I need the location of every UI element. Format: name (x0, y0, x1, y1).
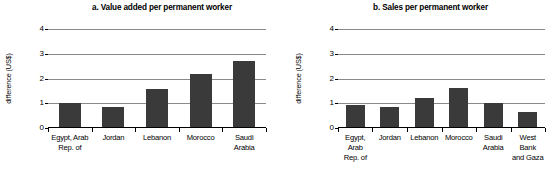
x-axis-label: Egypt, ArabRep. of (338, 133, 373, 163)
x-tick-mark (545, 128, 546, 132)
bar-egypt-arab-rep-of (346, 105, 365, 127)
figure: a. Value added per permanent worker diff… (0, 0, 553, 177)
panel-b-title: b. Sales per permanent worker (280, 3, 553, 12)
x-axis-label: Jordan (92, 133, 136, 153)
panel-b-y-axis-label-text: difference (US$) (294, 53, 303, 104)
x-axis-label-line1: Jordan (379, 133, 401, 142)
y-tick-label-2: 2 (30, 75, 44, 83)
y-tick-label-0: 0 (30, 124, 44, 132)
x-tick-mark (511, 128, 512, 132)
x-tick-mark (266, 128, 267, 132)
x-axis-label-line1: Morocco (445, 133, 473, 142)
x-tick-mark (92, 128, 93, 132)
panel-a-bars (48, 29, 266, 127)
bar-slot (135, 29, 179, 127)
panel-b-y-axis-label: difference (US$) (292, 29, 304, 128)
chart-panel-b: b. Sales per permanent worker difference… (280, 0, 553, 177)
bar-slot (407, 29, 442, 127)
bar-slot (442, 29, 477, 127)
panel-b-x-labels: Egypt, ArabRep. ofJordanLebanonMoroccoSa… (338, 133, 545, 163)
bar-egypt-arab-rep-of (59, 103, 81, 128)
x-axis-label: Jordan (373, 133, 408, 163)
x-tick-mark (338, 128, 339, 132)
x-tick-mark (476, 128, 477, 132)
x-axis-label-line1: West Bank (519, 133, 536, 152)
x-axis-label-line1: Saudi (235, 133, 253, 142)
panel-a-x-labels: Egypt, ArabRep. ofJordanLebanonMoroccoSa… (48, 133, 266, 153)
bar-lebanon (146, 89, 168, 127)
y-tick-label-1: 1 (30, 99, 44, 107)
panel-b-x-ticks (338, 128, 545, 132)
panel-a-y-axis-label: difference (US$) (2, 29, 14, 128)
bar-morocco (449, 88, 468, 127)
bar-morocco (190, 74, 212, 127)
chart-panel-a: a. Value added per permanent worker diff… (0, 0, 280, 177)
panel-b-bars (338, 29, 545, 127)
bar-saudi-arabia (233, 61, 255, 127)
x-axis-label: SaudiArabia (476, 133, 511, 163)
bar-lebanon (415, 98, 434, 127)
x-axis-label-line1: Lebanon (410, 133, 438, 142)
x-axis-label-line2: Arabia (222, 143, 266, 153)
x-axis-label: Lebanon (135, 133, 179, 153)
x-tick-mark (179, 128, 180, 132)
y-tick-label-1: 1 (320, 99, 334, 107)
bar-slot (511, 29, 546, 127)
panel-a-plot-area: 01234 (48, 29, 266, 128)
y-tick-label-3: 3 (320, 50, 334, 58)
x-tick-mark (442, 128, 443, 132)
y-tick-label-2: 2 (320, 75, 334, 83)
bar-saudi-arabia (484, 103, 503, 128)
bar-west-bank-and-gaza (518, 112, 537, 127)
x-axis-label-line1: Morocco (187, 133, 215, 142)
bar-slot (92, 29, 136, 127)
panel-b-plot-area: 01234 (338, 29, 545, 128)
y-tick-label-3: 3 (30, 50, 44, 58)
x-axis-label-line1: Lebanon (143, 133, 171, 142)
bar-slot (476, 29, 511, 127)
x-axis-label-line1: Egypt, Arab (345, 133, 365, 152)
panel-a-x-ticks (48, 128, 266, 132)
bar-jordan (102, 107, 124, 127)
panel-a-y-axis-label-text: difference (US$) (4, 53, 13, 104)
x-axis-label-line2: and Gaza (511, 153, 546, 163)
x-axis-label-line2: Rep. of (338, 153, 373, 163)
x-axis-label-line1: Saudi (484, 133, 502, 142)
x-axis-label-line1: Jordan (102, 133, 124, 142)
x-axis-label-line2: Rep. of (48, 143, 92, 153)
x-axis-label: Morocco (179, 133, 223, 153)
y-tick-label-0: 0 (320, 124, 334, 132)
bar-slot (338, 29, 373, 127)
bar-slot (48, 29, 92, 127)
x-axis-label: SaudiArabia (222, 133, 266, 153)
x-tick-mark (48, 128, 49, 132)
x-tick-mark (407, 128, 408, 132)
y-tick-label-4: 4 (30, 25, 44, 33)
x-axis-label: Lebanon (407, 133, 442, 163)
x-tick-mark (222, 128, 223, 132)
x-axis-label-line1: Egypt, Arab (51, 133, 88, 142)
x-tick-mark (372, 128, 373, 132)
x-tick-mark (135, 128, 136, 132)
x-axis-label: Egypt, ArabRep. of (48, 133, 92, 153)
bar-slot (373, 29, 408, 127)
x-axis-label-line2: Arabia (476, 143, 511, 153)
y-tick-label-4: 4 (320, 25, 334, 33)
x-axis-label: West Bankand Gaza (511, 133, 546, 163)
x-axis-label: Morocco (442, 133, 477, 163)
panel-a-title: a. Value added per permanent worker (0, 3, 302, 12)
bar-slot (179, 29, 223, 127)
bar-jordan (380, 107, 399, 127)
bar-slot (222, 29, 266, 127)
